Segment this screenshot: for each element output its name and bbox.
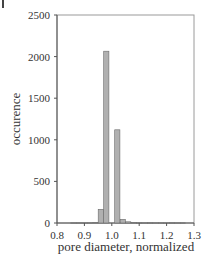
y-axis-label: occurence bbox=[8, 92, 23, 145]
histogram-bar bbox=[126, 222, 131, 223]
plot-frame bbox=[57, 15, 194, 223]
histogram-bar bbox=[131, 223, 136, 224]
y-tick-label: 1500 bbox=[28, 92, 51, 104]
histogram-bar bbox=[87, 223, 92, 224]
histogram-bar bbox=[148, 223, 153, 224]
y-tick-label: 2500 bbox=[28, 9, 51, 21]
histogram-bar bbox=[180, 223, 185, 224]
histogram-bar bbox=[170, 223, 175, 224]
histogram-bar bbox=[76, 223, 81, 224]
histogram-bar bbox=[115, 130, 120, 223]
x-axis-label: pore diameter, normalized bbox=[58, 239, 195, 254]
y-tick-label: 2000 bbox=[28, 51, 51, 63]
y-axis-ticks: 05001000150020002500 bbox=[28, 9, 57, 229]
y-tick-label: 0 bbox=[45, 217, 51, 229]
histogram-bar bbox=[120, 219, 125, 223]
histogram-bar bbox=[153, 223, 158, 224]
histogram-chart: 05001000150020002500 0.80.91.01.11.21.3 … bbox=[0, 0, 204, 273]
histogram-bar bbox=[98, 209, 103, 223]
histogram-bar bbox=[71, 223, 76, 224]
histogram-bar bbox=[93, 223, 98, 224]
bars bbox=[71, 51, 186, 223]
histogram-bar bbox=[104, 51, 109, 223]
y-tick-label: 1000 bbox=[28, 134, 51, 146]
histogram-bar bbox=[159, 223, 164, 224]
histogram-bar bbox=[142, 223, 147, 224]
histogram-bar bbox=[175, 223, 180, 224]
y-tick-label: 500 bbox=[34, 175, 51, 187]
